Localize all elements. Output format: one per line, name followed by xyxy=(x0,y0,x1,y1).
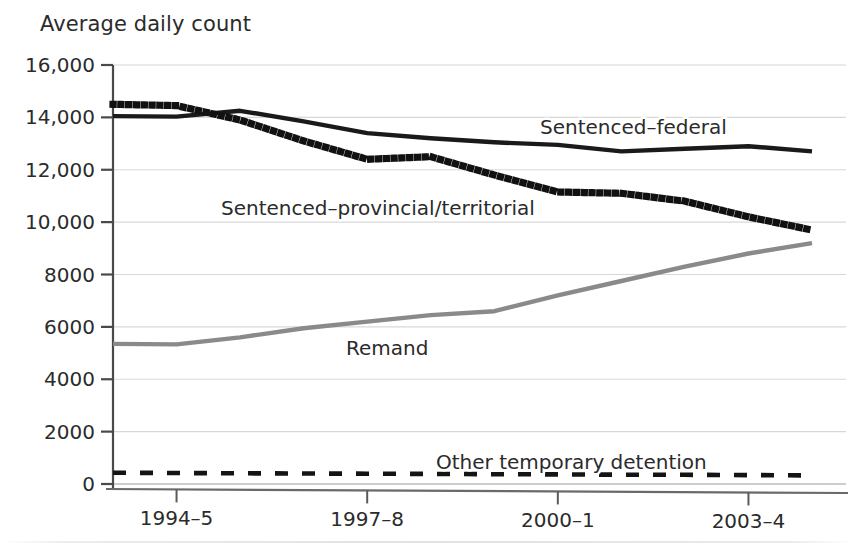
line-chart-plot: 0200040006000800010,00012,00014,00016,00… xyxy=(0,0,854,546)
x-axis-tick-label: 1997–8 xyxy=(330,507,404,531)
y-axis-tick-label: 4000 xyxy=(44,367,95,391)
data-series-group xyxy=(113,104,812,475)
x-axis-tick-label: 2000–1 xyxy=(521,508,595,532)
y-axis-tick-label: 2000 xyxy=(44,420,95,444)
y-axis-tick-label: 6000 xyxy=(44,315,95,339)
series-label: Other temporary detention xyxy=(436,450,707,474)
y-axis-tick-label: 8000 xyxy=(44,263,95,287)
x-axis-line xyxy=(106,489,848,493)
series-line-2 xyxy=(113,243,812,344)
series-label: Remand xyxy=(346,336,428,360)
gridlines-group xyxy=(112,65,846,484)
series-label: Sentenced–federal xyxy=(540,115,727,139)
chart-figure: Average daily count 0200040006000800010,… xyxy=(0,0,854,546)
scan-artifact-line xyxy=(0,541,854,543)
y-axis-tick-label: 10,000 xyxy=(25,210,95,234)
x-axis-tick-label: 2003–4 xyxy=(712,509,786,533)
x-axis-ticks-group: 1994–51997–82000–12003–4 xyxy=(140,489,786,533)
y-axis-tick-label: 12,000 xyxy=(25,158,95,182)
x-axis-tick-label: 1994–5 xyxy=(140,506,214,530)
y-axis-tick-label: 14,000 xyxy=(25,105,95,129)
series-label: Sentenced–provincial/territorial xyxy=(221,196,535,220)
y-axis-tick-label: 16,000 xyxy=(25,53,95,77)
y-axis-tick-label: 0 xyxy=(82,472,95,496)
y-axis-ticks-group: 0200040006000800010,00012,00014,00016,00… xyxy=(25,53,113,496)
